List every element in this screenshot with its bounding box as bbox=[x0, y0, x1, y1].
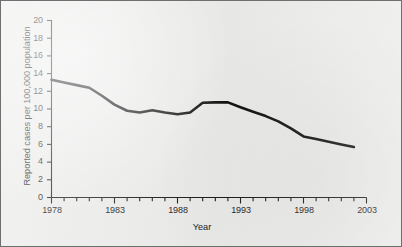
y-tick-marks bbox=[47, 21, 52, 198]
x-tick-label: 1988 bbox=[158, 205, 198, 215]
x-tick-label: 2003 bbox=[347, 205, 387, 215]
x-tick-label: 1993 bbox=[221, 205, 261, 215]
x-tick-label: 1998 bbox=[284, 205, 324, 215]
x-tick-marks bbox=[52, 198, 367, 204]
data-series-line bbox=[52, 80, 354, 147]
y-axis-title: Reported cases per 100,000 population bbox=[22, 11, 32, 201]
x-axis-title: Year bbox=[1, 222, 402, 232]
x-tick-label: 1978 bbox=[32, 205, 72, 215]
chart-figure: 20 18 16 14 12 10 8 6 4 2 0 1978 1983 19… bbox=[0, 0, 402, 247]
x-tick-label: 1983 bbox=[95, 205, 135, 215]
